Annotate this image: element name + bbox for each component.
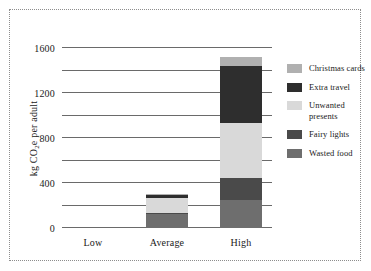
- x-axis-tick-label: High: [220, 237, 262, 248]
- legend-swatch: [287, 149, 302, 158]
- legend-item-label: Extra travel: [309, 82, 350, 93]
- legend-item[interactable]: Christmas cards: [287, 63, 371, 74]
- bar-segment[interactable]: [220, 57, 262, 66]
- legend-swatch: [287, 83, 302, 92]
- y-axis-tick-label: 800: [39, 133, 55, 144]
- y-axis-tick-label: 400: [39, 178, 55, 189]
- bar-segment[interactable]: [146, 198, 188, 213]
- bar-average[interactable]: Average: [146, 194, 188, 228]
- legend-item[interactable]: Unwanted presents: [287, 100, 371, 121]
- bar-segment[interactable]: [146, 214, 188, 228]
- y-axis-title-text: kg CO2e per adult: [29, 100, 40, 176]
- x-axis-tick-label: Low: [72, 237, 114, 248]
- y-axis-title-subscript: 2: [34, 145, 42, 149]
- bar-high[interactable]: High: [220, 57, 262, 228]
- bar-segment[interactable]: [220, 66, 262, 123]
- bar-segment[interactable]: [220, 200, 262, 228]
- y-axis-title-post: e per adult: [29, 100, 40, 144]
- legend-swatch: [287, 130, 302, 139]
- plot-area: 040080012001600LowAverageHigh: [62, 48, 272, 228]
- chart-legend: Christmas cardsExtra travelUnwanted pres…: [287, 63, 371, 166]
- x-axis-tick-label: Average: [146, 237, 188, 248]
- y-axis-tick-label: 1200: [34, 88, 55, 99]
- y-axis-tick-label: 0: [50, 223, 55, 234]
- legend-item-label: Unwanted presents: [309, 100, 371, 121]
- legend-item-label: Fairy lights: [309, 129, 349, 140]
- legend-item[interactable]: Wasted food: [287, 148, 371, 159]
- y-axis-tick-label: 1600: [34, 43, 55, 54]
- bar-segment[interactable]: [220, 178, 262, 200]
- legend-item[interactable]: Extra travel: [287, 82, 371, 93]
- legend-item-label: Christmas cards: [309, 63, 365, 74]
- gridline-major: [62, 47, 272, 48]
- legend-item[interactable]: Fairy lights: [287, 129, 371, 140]
- bar-segment[interactable]: [220, 123, 262, 178]
- legend-swatch: [287, 101, 302, 110]
- legend-swatch: [287, 64, 302, 73]
- y-axis-title-pre: kg CO: [29, 148, 40, 175]
- chart-frame: kg CO2e per adult 040080012001600LowAver…: [9, 9, 361, 261]
- legend-item-label: Wasted food: [309, 148, 353, 159]
